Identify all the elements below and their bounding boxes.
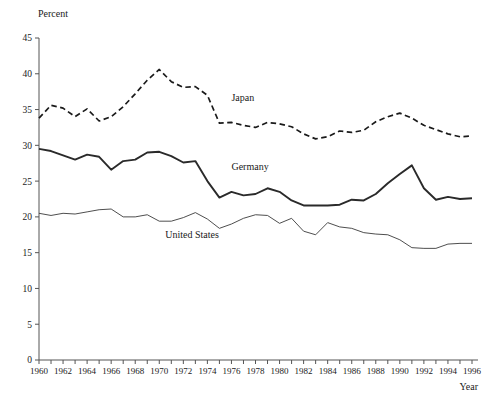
y-tick-label: 20 [23, 212, 33, 222]
y-tick-label: 30 [23, 141, 33, 151]
x-tick-label: 1966 [102, 366, 121, 376]
y-tick-label: 25 [23, 177, 33, 187]
series-label-japan: Japan [231, 92, 254, 103]
x-tick-label: 1970 [150, 366, 169, 376]
x-tick-label: 1992 [415, 366, 433, 376]
x-tick-label: 1972 [174, 366, 192, 376]
x-tick-label: 1960 [30, 366, 49, 376]
x-axis-title: Year [460, 381, 479, 392]
axes-group [39, 38, 478, 360]
x-tick-label: 1976 [222, 366, 241, 376]
x-tick-label: 1994 [439, 366, 458, 376]
series-label-germany: Germany [231, 161, 268, 172]
x-tick-label: 1962 [54, 366, 72, 376]
y-tick-label: 10 [23, 284, 33, 294]
x-tick-label: 1984 [319, 366, 338, 376]
series-line-united-states [39, 209, 472, 248]
x-tick-label: 1986 [343, 366, 362, 376]
x-tick-label: 1980 [271, 366, 290, 376]
x-tick-label: 1964 [78, 366, 97, 376]
y-axis-title: Percent [38, 8, 68, 19]
series-line-japan [39, 69, 472, 138]
x-tick-label: 1982 [295, 366, 313, 376]
series-group [39, 69, 472, 248]
y-tick-label: 45 [23, 33, 33, 43]
x-tick-label: 1996 [463, 366, 482, 376]
y-tick-group: 051015202530354045 [23, 33, 40, 365]
line-chart: 051015202530354045 196019621964196619681… [0, 0, 495, 405]
x-tick-label: 1968 [126, 366, 145, 376]
series-label-united-states: United States [165, 229, 219, 240]
y-tick-label: 40 [23, 69, 33, 79]
y-tick-label: 35 [23, 105, 33, 115]
x-tick-label: 1988 [367, 366, 386, 376]
y-tick-label: 0 [27, 355, 32, 365]
x-tick-label: 1990 [391, 366, 410, 376]
x-tick-label: 1974 [198, 366, 217, 376]
x-tick-group: 1960196219641966196819701972197419761978… [30, 360, 482, 376]
chart-page: 051015202530354045 196019621964196619681… [0, 0, 495, 405]
y-tick-label: 5 [27, 320, 32, 330]
plot-area: 051015202530354045 196019621964196619681… [23, 8, 482, 392]
x-tick-label: 1978 [247, 366, 266, 376]
series-line-germany [39, 149, 472, 206]
y-tick-label: 15 [23, 248, 33, 258]
